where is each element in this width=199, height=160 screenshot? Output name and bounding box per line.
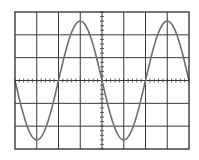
oscilloscope-display [0,0,199,160]
